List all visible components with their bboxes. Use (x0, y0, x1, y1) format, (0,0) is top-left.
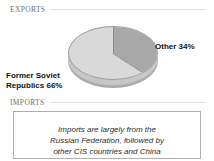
exports-pie-chart: Former Soviet Republics 66% Other 34% (0, 16, 214, 94)
pie-label-other: Other 34% (155, 42, 195, 52)
exports-section-label: EXPORTS (10, 5, 45, 14)
pie-top-face (68, 26, 158, 80)
imports-note-line-3: other CIS countries and China (50, 146, 164, 157)
imports-note-text: Imports are largely from the Russian Fed… (50, 114, 164, 157)
pie-label-former-soviet-republics: Former Soviet Republics 66% (6, 71, 62, 91)
imports-note-line-2: Russian Federation, followed by (50, 135, 164, 146)
infographic-page: EXPORTS Former Soviet Republics 66% Othe… (0, 0, 214, 161)
pie-radius-line-top (113, 27, 114, 53)
imports-note-box: Imports are largely from the Russian Fed… (13, 111, 201, 159)
exports-header-rule (50, 9, 206, 10)
pie-graphic (68, 26, 158, 92)
imports-section-header: IMPORTS (10, 98, 206, 107)
imports-section-label: IMPORTS (10, 98, 45, 107)
exports-section-header: EXPORTS (10, 5, 206, 14)
imports-header-rule (50, 102, 206, 103)
imports-note-line-1: Imports are largely from the (50, 124, 164, 135)
